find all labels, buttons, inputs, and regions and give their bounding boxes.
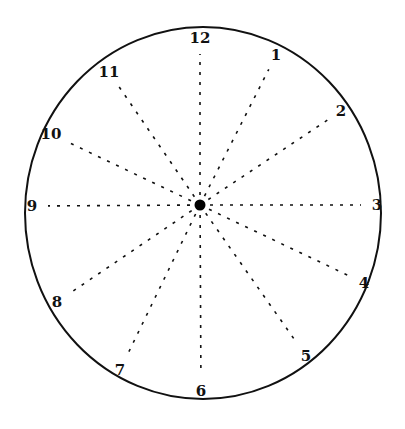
spoke-11 xyxy=(118,85,194,197)
spoke-1 xyxy=(205,69,269,196)
spoke-5 xyxy=(206,213,297,343)
hour-label-3: 3 xyxy=(372,196,382,214)
dashed-spokes xyxy=(48,54,361,375)
hour-label-4: 4 xyxy=(359,274,369,292)
spoke-7 xyxy=(127,214,196,356)
spoke-8 xyxy=(70,211,192,293)
spoke-6 xyxy=(200,215,201,375)
hour-label-9: 9 xyxy=(27,197,37,215)
spoke-10 xyxy=(65,141,191,201)
hour-label-12: 12 xyxy=(190,29,211,47)
clock-diagram: 121234567891011 xyxy=(0,0,405,429)
spoke-4 xyxy=(209,209,350,276)
hour-label-6: 6 xyxy=(196,382,206,400)
hour-label-8: 8 xyxy=(52,293,62,311)
center-dot xyxy=(195,200,206,211)
hour-label-5: 5 xyxy=(301,347,311,365)
hour-label-7: 7 xyxy=(115,361,125,379)
hour-label-10: 10 xyxy=(41,125,62,143)
hour-label-2: 2 xyxy=(336,102,346,120)
spoke-9 xyxy=(48,205,190,206)
spoke-2 xyxy=(208,120,327,200)
hour-label-11: 11 xyxy=(99,63,120,81)
hour-label-1: 1 xyxy=(271,46,281,64)
clock-face-outline xyxy=(25,27,381,399)
